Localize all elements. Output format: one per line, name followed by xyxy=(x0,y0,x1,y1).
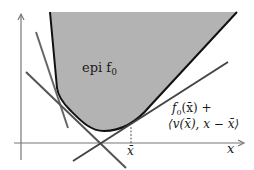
tangent-label-line2: ⟨v(x̄), x − x̄⟩ xyxy=(168,117,239,131)
x-axis-label: x xyxy=(227,141,235,156)
tangent-label-line1: f0(x̄) + xyxy=(171,101,212,117)
epigraph-diagram: epi f0 f0(x̄) + ⟨v(x̄), x − x̄⟩ x̄ x xyxy=(0,0,254,170)
xbar-tick-label: x̄ xyxy=(127,144,134,158)
